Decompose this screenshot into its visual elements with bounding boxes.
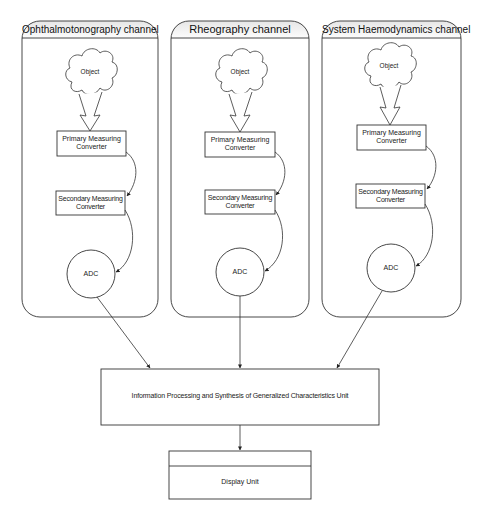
channel-title-rheography: Rheography channel	[171, 23, 309, 36]
connector-ch3-to-processing	[337, 291, 382, 368]
diagram-canvas	[0, 0, 478, 516]
adc-label: ADC	[371, 264, 411, 272]
primary-converter-label: Primary Measuring Converter	[57, 135, 126, 151]
hollow-arrow	[380, 85, 401, 125]
secondary-converter-label: Secondary Measuring Converter	[205, 194, 275, 210]
connector-ch1-to-processing	[97, 297, 150, 368]
adc-label: ADC	[220, 268, 260, 276]
processing-unit-label: Information Processing and Synthesis of …	[101, 392, 379, 400]
primary-converter-label: Primary Measuring Converter	[205, 136, 275, 152]
primary-converter-label: Primary Measuring Converter	[357, 129, 426, 145]
adc-label: ADC	[71, 270, 111, 278]
object-label: Object	[220, 68, 260, 75]
display-unit-box	[169, 451, 311, 499]
channel-title-ophthalmotonography: Ophthalmotonography channel	[22, 24, 158, 36]
object-label: Object	[369, 62, 409, 69]
object-label: Object	[70, 68, 110, 75]
display-unit-label: Display Unit	[169, 478, 311, 486]
secondary-converter-label: Secondary Measuring Converter	[356, 188, 425, 204]
channel-title-system-haemodynamics: System Haemodynamics channel	[322, 24, 461, 36]
hollow-arrow	[229, 92, 252, 132]
hollow-arrow	[79, 92, 102, 131]
secondary-converter-label: Secondary Measuring Converter	[56, 195, 125, 211]
